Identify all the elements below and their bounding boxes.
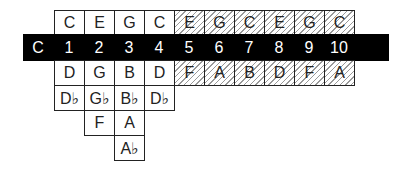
hole-number: 3 xyxy=(114,34,144,61)
note-label: G xyxy=(93,64,105,82)
hole-number: 8 xyxy=(264,34,294,61)
key-label: C xyxy=(23,34,53,61)
draw-note-1: D xyxy=(54,60,85,86)
note-label: B♭ xyxy=(120,89,138,108)
note-label: D xyxy=(274,64,286,82)
bend2-note-2: F xyxy=(84,110,115,136)
draw-note-5: F xyxy=(174,60,205,86)
blow-note-6: G xyxy=(204,10,235,35)
bend3-note-3: A♭ xyxy=(114,135,145,161)
hole-number: 1 xyxy=(54,34,84,61)
note-label: D xyxy=(64,64,76,82)
draw-note-8: D xyxy=(264,60,295,86)
blow-note-5: E xyxy=(174,10,205,35)
blow-note-3: G xyxy=(114,10,145,35)
draw-note-10: A xyxy=(324,60,355,86)
hole-number: 7 xyxy=(234,34,264,61)
blow-note-8: E xyxy=(264,10,295,35)
note-label: F xyxy=(305,64,315,82)
hole-number: 5 xyxy=(174,34,204,61)
note-label: E xyxy=(94,14,105,32)
draw-note-4: D xyxy=(144,60,175,86)
note-label: B xyxy=(244,64,255,82)
draw-note-9: F xyxy=(294,60,325,86)
note-label: F xyxy=(95,114,105,132)
note-label: G xyxy=(303,14,315,32)
note-label: D♭ xyxy=(60,89,79,108)
note-label: A xyxy=(334,64,345,82)
hole-number: 10 xyxy=(324,34,354,61)
note-label: E xyxy=(274,14,285,32)
blow-note-1: C xyxy=(54,10,85,35)
note-label: G♭ xyxy=(90,89,110,108)
note-label: D♭ xyxy=(150,89,169,108)
note-label: D xyxy=(154,64,166,82)
note-label: C xyxy=(334,14,346,32)
bend-note-3: B♭ xyxy=(114,85,145,111)
bend-note-2: G♭ xyxy=(84,85,115,111)
note-label: C xyxy=(154,14,166,32)
draw-note-6: A xyxy=(204,60,235,86)
bend-note-1: D♭ xyxy=(54,85,85,111)
hole-number: 9 xyxy=(294,34,324,61)
bend-note-4: D♭ xyxy=(144,85,175,111)
draw-note-7: B xyxy=(234,60,265,86)
note-label: G xyxy=(123,14,135,32)
blow-note-4: C xyxy=(144,10,175,35)
blow-note-7: C xyxy=(234,10,265,35)
note-label: A♭ xyxy=(120,139,138,158)
bend2-note-3: A xyxy=(114,110,145,136)
note-label: E xyxy=(184,14,195,32)
note-label: C xyxy=(244,14,256,32)
note-label: F xyxy=(185,64,195,82)
hole-number: 4 xyxy=(144,34,174,61)
draw-note-3: B xyxy=(114,60,145,86)
note-label: A xyxy=(124,114,135,132)
hole-number: 2 xyxy=(84,34,114,61)
draw-note-2: G xyxy=(84,60,115,86)
blow-note-10: C xyxy=(324,10,355,35)
note-label: C xyxy=(64,14,76,32)
note-label: B xyxy=(124,64,135,82)
hole-number: 6 xyxy=(204,34,234,61)
blow-note-2: E xyxy=(84,10,115,35)
note-label: A xyxy=(214,64,225,82)
blow-note-9: G xyxy=(294,10,325,35)
note-label: G xyxy=(213,14,225,32)
